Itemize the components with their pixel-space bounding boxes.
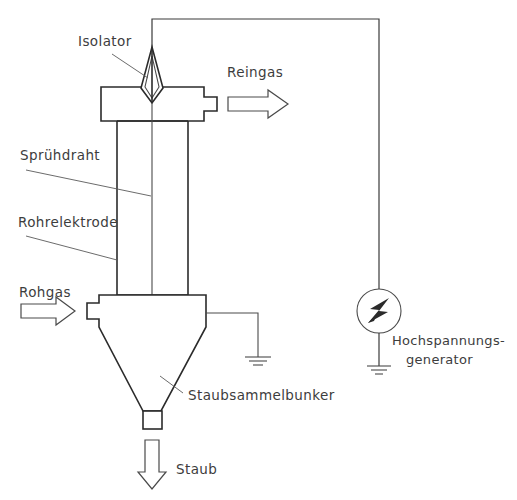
hopper-ground-wire (206, 313, 258, 357)
label-staubsammelbunker: Staubsammelbunker (188, 387, 335, 403)
reingas-arrow-right-icon (228, 90, 288, 118)
ground-symbol-icon-hopper (245, 357, 271, 365)
label-isolator: Isolator (78, 33, 132, 49)
ground-symbol-icon-generator (367, 366, 391, 374)
staub-arrow-down-icon (138, 440, 166, 489)
label-staub: Staub (176, 461, 217, 477)
diagram-canvas: Isolator Sprühdraht Rohrelektrode Rohgas… (0, 0, 517, 500)
leader-line-spruehdraht (26, 170, 151, 196)
high-voltage-wire (152, 19, 379, 289)
leader-line-isolator (112, 54, 148, 78)
label-spruehdraht: Sprühdraht (20, 147, 100, 163)
rohgas-arrow-right-icon (21, 297, 75, 325)
label-reingas: Reingas (227, 64, 283, 80)
electrostatic-precipitator-diagram: Isolator Sprühdraht Rohrelektrode Rohgas… (0, 0, 517, 500)
dust-outlet-box (143, 411, 162, 429)
leader-line-rohrelektrode (26, 236, 117, 260)
label-rohgas: Rohgas (19, 284, 71, 300)
label-hochspannungsgenerator-line1: Hochspannungs- (392, 333, 505, 348)
label-hochspannungsgenerator-line2: generator (406, 352, 473, 367)
label-rohrelektrode: Rohrelektrode (18, 214, 118, 230)
